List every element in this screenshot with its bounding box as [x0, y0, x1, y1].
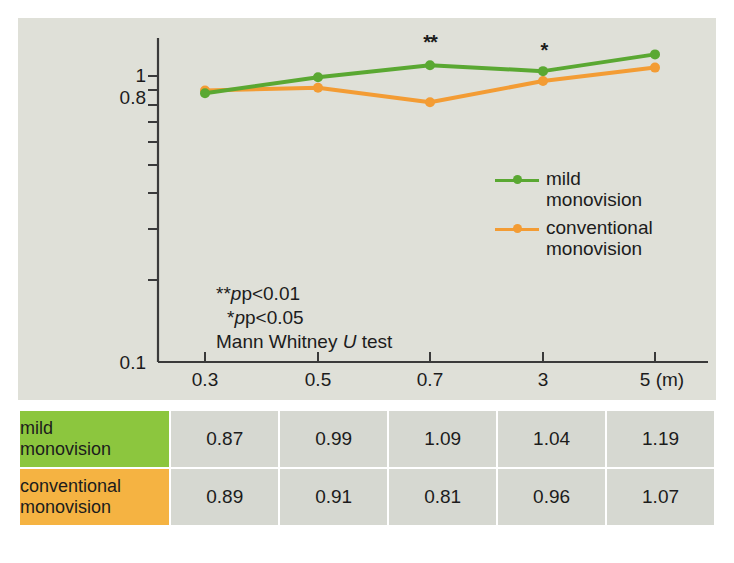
y-tick-label-0-8: 0.8	[86, 88, 146, 107]
x-tick-label-1: 0.5	[305, 370, 331, 389]
stats-note-u-italic: U	[343, 331, 357, 352]
table-row-header-line1: mild	[20, 418, 53, 438]
table-row-header-mild-monovision: mild monovision	[20, 411, 169, 467]
chart-legend: mild monovision conventional monovision	[495, 168, 710, 266]
table-cell: 1.09	[389, 411, 496, 467]
legend-line-marker-icon	[495, 170, 539, 190]
table-cell: 0.81	[389, 469, 496, 525]
data-point	[650, 49, 660, 59]
table-row: conventional monovision 0.89 0.91 0.81 0…	[20, 469, 714, 525]
table-row-header-conventional-monovision: conventional monovision	[20, 469, 169, 525]
stats-note-p01-value: p<0.01	[241, 283, 300, 304]
figure-container: 1 0.8 0.1 0.3 0.5 0.7 3 5 (m) ** * mild …	[0, 0, 734, 563]
table-cell: 1.07	[607, 469, 714, 525]
data-point	[538, 66, 548, 76]
data-point	[200, 88, 210, 98]
legend-item-conventional-monovision: conventional monovision	[495, 217, 710, 259]
table-cell: 0.91	[280, 469, 387, 525]
x-tick-label-2: 0.7	[417, 370, 443, 389]
chart-panel: 1 0.8 0.1 0.3 0.5 0.7 3 5 (m) ** * mild …	[18, 18, 716, 400]
legend-label-conventional-monovision: conventional monovision	[546, 217, 653, 259]
data-point	[425, 60, 435, 70]
stats-note-p-italic: p	[234, 307, 245, 328]
data-table-body: mild monovision 0.87 0.99 1.09 1.04 1.19…	[20, 411, 714, 525]
legend-label-mild-monovision: mild monovision	[546, 168, 642, 210]
stats-note-line-p05: *pp<0.05	[216, 306, 392, 330]
x-tick-label-0: 0.3	[192, 370, 218, 389]
data-point	[313, 83, 323, 93]
data-point	[425, 97, 435, 107]
table-row-header-line1: conventional	[20, 476, 121, 496]
stats-note-line-test: Mann Whitney U test	[216, 330, 392, 354]
table-row-header-line2: monovision	[20, 497, 111, 517]
x-tick-label-3: 3	[538, 370, 549, 389]
significance-marker-single-star: *	[541, 40, 548, 60]
table-cell: 1.19	[607, 411, 714, 467]
x-tick-label-4: 5 (m)	[640, 370, 684, 389]
y-axis-ticks	[148, 76, 158, 280]
legend-line-marker-icon	[495, 219, 539, 239]
data-point	[538, 76, 548, 86]
legend-item-mild-monovision: mild monovision	[495, 168, 710, 210]
significance-marker-double-star: **	[423, 32, 437, 52]
stats-note-line-p01: **pp<0.01	[216, 282, 392, 306]
table-cell: 0.96	[498, 469, 605, 525]
statistics-note: **pp<0.01 *pp<0.05 Mann Whitney U test	[216, 282, 392, 354]
y-tick-label-1: 1	[106, 66, 146, 85]
stats-note-p05-value: p<0.05	[245, 307, 304, 328]
y-tick-label-0-1: 0.1	[86, 353, 146, 372]
table-cell: 0.99	[280, 411, 387, 467]
data-point	[650, 63, 660, 73]
data-table: mild monovision 0.87 0.99 1.09 1.04 1.19…	[18, 409, 716, 527]
table-cell: 1.04	[498, 411, 605, 467]
table-row-header-line2: monovision	[20, 439, 111, 459]
stats-note-p-italic: p	[231, 283, 242, 304]
table-cell: 0.89	[171, 469, 278, 525]
data-point	[313, 72, 323, 82]
table-cell: 0.87	[171, 411, 278, 467]
table-row: mild monovision 0.87 0.99 1.09 1.04 1.19	[20, 411, 714, 467]
